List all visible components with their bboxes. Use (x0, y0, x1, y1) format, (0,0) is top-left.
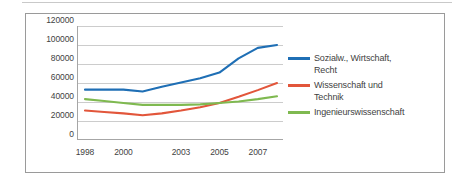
x-tick-label: 2007 (249, 147, 268, 158)
y-axis: 020000400006000080000100000120000 (28, 20, 74, 146)
line-chart-svg (77, 26, 283, 140)
x-axis: 19982000200320052007 (77, 147, 287, 161)
legend-item-sozialwissenschaft[interactable]: Sozialw., Wirtschaft, Recht (288, 52, 440, 76)
x-tick-label: 2003 (172, 147, 191, 158)
x-tick-label: 2000 (114, 147, 133, 158)
series-line (85, 83, 277, 115)
legend-color-swatch (288, 111, 310, 114)
page-top-rule (22, 2, 452, 3)
plot-area (77, 26, 283, 140)
legend-color-swatch (288, 57, 310, 60)
legend-label: Wissenschaft und Technik (314, 79, 383, 103)
legend-item-wissenschaft-technik[interactable]: Wissenschaft und Technik (288, 79, 440, 103)
y-tick-label: 20000 (28, 110, 74, 120)
legend-label: Ingenieurswissenschaft (314, 106, 404, 118)
legend-label: Sozialw., Wirtschaft, Recht (314, 52, 391, 76)
gridlines (77, 27, 283, 122)
data-series-group (85, 45, 277, 115)
y-tick-label: 120000 (28, 15, 74, 25)
y-tick-label: 40000 (28, 91, 74, 101)
series-line (85, 45, 277, 92)
y-tick-label: 0 (28, 129, 74, 139)
series-line (85, 96, 277, 105)
chart-figure-frame: 020000400006000080000100000120000 199820… (25, 13, 445, 173)
y-tick-label: 80000 (28, 53, 74, 63)
x-tick-label: 2005 (210, 147, 229, 158)
legend-color-swatch (288, 84, 310, 87)
x-tick-label: 1998 (76, 147, 95, 158)
y-tick-label: 60000 (28, 72, 74, 82)
legend-item-ingenieurswissenschaft[interactable]: Ingenieurswissenschaft (288, 106, 440, 118)
y-tick-label: 100000 (28, 34, 74, 44)
chart-legend: Sozialw., Wirtschaft, RechtWissenschaft … (288, 52, 440, 121)
